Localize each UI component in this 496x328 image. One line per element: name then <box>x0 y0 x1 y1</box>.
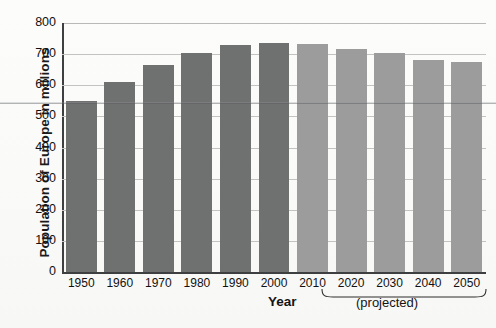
bar-1990 <box>220 45 251 272</box>
bar-2000 <box>259 43 290 272</box>
x-tick-label-2010: 2010 <box>293 276 332 290</box>
y-tick-label: 200 <box>10 202 56 216</box>
bar-1980 <box>181 53 212 272</box>
y-tick-label: 100 <box>10 233 56 247</box>
bar-2010 <box>297 44 328 272</box>
bar-2030 <box>374 53 405 272</box>
x-tick-label-1990: 1990 <box>216 276 255 290</box>
y-tick-label: 400 <box>10 140 56 154</box>
projected-note-label: (projected) <box>356 295 418 310</box>
x-tick-label-2030: 2030 <box>370 276 409 290</box>
x-tick-label-2000: 2000 <box>255 276 294 290</box>
x-tick-label-1950: 1950 <box>62 276 101 290</box>
chart-page: Population of Europe in millions 8007006… <box>0 0 496 328</box>
bar-2040 <box>413 60 444 272</box>
x-tick-label-2020: 2020 <box>332 276 371 290</box>
x-tick-label-2050: 2050 <box>447 276 486 290</box>
x-tick-label-2040: 2040 <box>409 276 448 290</box>
x-tick-label-1980: 1980 <box>178 276 217 290</box>
bar-2020 <box>336 49 367 272</box>
bar-1970 <box>143 65 174 272</box>
y-tick-label: 700 <box>10 46 56 60</box>
y-tick-label: 600 <box>10 77 56 91</box>
plot-area <box>62 23 486 272</box>
y-axis-tick-labels: 8007006005004003002001000 <box>8 23 56 273</box>
bar-1960 <box>104 82 135 272</box>
x-axis-title: Year <box>268 294 297 309</box>
x-tick-label-1960: 1960 <box>101 276 140 290</box>
bar-1950 <box>66 101 97 272</box>
y-tick-label: 300 <box>10 171 56 185</box>
bar-2050 <box>451 62 482 272</box>
y-tick-label: 0 <box>10 264 56 278</box>
x-axis-line <box>62 272 486 274</box>
y-tick-label: 500 <box>10 108 56 122</box>
x-tick-label-1970: 1970 <box>139 276 178 290</box>
y-tick-label: 800 <box>10 15 56 29</box>
plot-top-border <box>62 23 486 24</box>
